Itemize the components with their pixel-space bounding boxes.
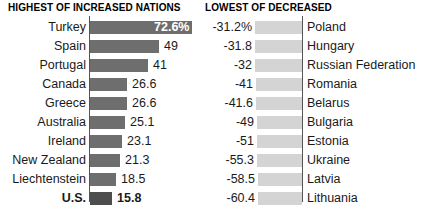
country-label: New Zealand (0, 153, 86, 167)
decreased-panel-heading: LOWEST OF DECREASED (205, 2, 332, 13)
value-bar (255, 21, 302, 34)
table-row: -41Romania (200, 75, 429, 94)
value-label: 15.8 (117, 192, 141, 205)
bar-track: 26.6 (90, 78, 200, 91)
table-row: Ireland23.1 (0, 132, 200, 151)
bar-track: 23.1 (90, 135, 200, 148)
table-row: -58.5Latvia (200, 170, 429, 189)
table-row: Spain49 (0, 37, 200, 56)
bar-track: 41 (90, 59, 200, 72)
bar-track: 21.3 (90, 154, 200, 167)
table-row: Portugal41 (0, 56, 200, 75)
decreased-nations-panel: LOWEST OF DECREASED -31.2%Poland-31.8Hun… (200, 0, 429, 211)
value-label: -58.5 (200, 172, 255, 186)
value-bar (90, 135, 122, 148)
value-bar (257, 154, 302, 167)
value-label: -49 (200, 115, 254, 129)
increased-rows-list: Turkey72.6%Spain49Portugal41Canada26.6Gr… (0, 18, 200, 208)
value-bar (255, 59, 302, 72)
value-label: -41.6 (200, 96, 253, 110)
country-label: Russian Federation (307, 58, 415, 72)
country-label: Greece (0, 96, 86, 110)
table-row: Greece26.6 (0, 94, 200, 113)
table-row: Canada26.6 (0, 75, 200, 94)
value-bar (256, 78, 302, 91)
table-row: -51Estonia (200, 132, 429, 151)
country-label: Belarus (307, 96, 349, 110)
country-label: Estonia (307, 134, 349, 148)
country-label: Hungary (307, 39, 354, 53)
value-bar (90, 40, 159, 53)
value-bar (90, 154, 120, 167)
value-bar (258, 192, 302, 205)
value-label: 26.6 (132, 97, 156, 110)
country-label: Turkey (0, 20, 86, 34)
bar-track: 18.5 (90, 173, 200, 186)
table-row: Australia25.1 (0, 113, 200, 132)
country-label: Lithuania (307, 191, 358, 205)
value-bar (90, 116, 125, 129)
bar-track: 49 (90, 40, 200, 53)
value-label: 49 (164, 40, 178, 53)
value-bar (257, 135, 302, 148)
table-row: -60.4Lithuania (200, 189, 429, 208)
table-row: -49Bulgaria (200, 113, 429, 132)
value-bar (255, 40, 302, 53)
value-label: 21.3 (125, 154, 149, 167)
value-bar (90, 78, 127, 91)
decreased-rows-list: -31.2%Poland-31.8Hungary-32Russian Feder… (200, 18, 429, 208)
value-label: 18.5 (121, 173, 145, 186)
table-row: -31.8Hungary (200, 37, 429, 56)
value-bar (257, 116, 302, 129)
bar-track: 25.1 (90, 116, 200, 129)
value-bar (90, 59, 148, 72)
value-bar (90, 97, 127, 110)
value-label: -60.4 (200, 191, 255, 205)
table-row: -55.3Ukraine (200, 151, 429, 170)
value-label: 26.6 (132, 78, 156, 91)
value-label: -32 (200, 58, 252, 72)
table-row: -31.2%Poland (200, 18, 429, 37)
value-label: 41 (153, 59, 167, 72)
value-label: 23.1 (127, 135, 151, 148)
bar-track: 15.8 (90, 192, 200, 205)
country-label: Portugal (0, 58, 86, 72)
table-row: -32Russian Federation (200, 56, 429, 75)
country-label: Ireland (0, 134, 86, 148)
value-bar (258, 173, 302, 186)
country-label: Romania (307, 77, 357, 91)
value-label: 72.6% (154, 21, 189, 34)
value-bar (90, 173, 116, 186)
value-label: 25.1 (130, 116, 154, 129)
value-bar (90, 192, 112, 205)
value-label: -55.3 (200, 153, 254, 167)
increased-nations-panel: HIGHEST OF INCREASED NATIONS Turkey72.6%… (0, 0, 200, 211)
country-label: U.S. (0, 191, 86, 205)
country-label: Bulgaria (307, 115, 353, 129)
country-label: Spain (0, 39, 86, 53)
table-row: U.S.15.8 (0, 189, 200, 208)
table-row: New Zealand21.3 (0, 151, 200, 170)
value-label: -31.2% (200, 20, 252, 34)
value-label: -31.8 (200, 39, 252, 53)
bar-track: 26.6 (90, 97, 200, 110)
country-label: Latvia (307, 172, 340, 186)
country-label: Liechtenstein (0, 172, 86, 186)
value-label: -51 (200, 134, 254, 148)
table-row: Turkey72.6% (0, 18, 200, 37)
table-row: -41.6Belarus (200, 94, 429, 113)
country-label: Poland (307, 20, 346, 34)
value-label: -41 (200, 77, 253, 91)
country-label: Ukraine (307, 153, 350, 167)
table-row: Liechtenstein18.5 (0, 170, 200, 189)
increased-panel-heading: HIGHEST OF INCREASED NATIONS (8, 2, 181, 13)
value-bar (256, 97, 302, 110)
country-label: Australia (0, 115, 86, 129)
bar-track: 72.6% (90, 21, 200, 34)
country-label: Canada (0, 77, 86, 91)
